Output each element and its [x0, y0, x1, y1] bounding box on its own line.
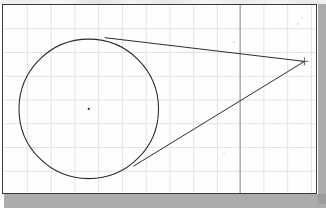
paper-shadow-bottom [4, 194, 326, 208]
drawing-sheet [2, 4, 317, 194]
speck [233, 41, 235, 43]
external-point [301, 57, 309, 65]
speck [223, 153, 225, 155]
geometry-figure [3, 5, 316, 193]
upper-tangent-line [105, 38, 305, 62]
speck [297, 23, 299, 25]
screenshot-root [0, 0, 326, 208]
circle-center-point [88, 108, 90, 110]
lower-tangent-line [133, 61, 304, 166]
speck [301, 17, 303, 19]
paper-shadow-right [318, 4, 326, 204]
